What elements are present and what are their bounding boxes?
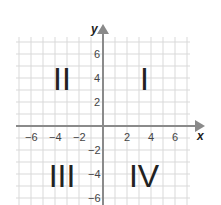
x-tick-label: −4 <box>49 131 62 143</box>
y-tick-label: −2 <box>88 144 101 156</box>
quadrant-2-label: II <box>53 61 71 97</box>
x-tick-label: 6 <box>172 131 178 143</box>
quadrant-4-label: IV <box>129 158 160 194</box>
y-axis-label: y <box>90 22 99 36</box>
y-tick-label: −4 <box>88 168 101 180</box>
quadrant-1-label: I <box>140 61 149 97</box>
x-tick-label: −6 <box>25 131 38 143</box>
y-tick-label: 4 <box>94 72 100 84</box>
x-tick-label: 4 <box>148 131 154 143</box>
coordinate-plane: x y −6 −4 −2 2 4 6 6 4 2 −2 −4 −6 I II I… <box>0 0 221 205</box>
y-tick-label: 6 <box>94 48 100 60</box>
y-tick-label: −6 <box>88 192 101 204</box>
x-tick-label: −2 <box>73 131 86 143</box>
y-tick-label: 2 <box>94 96 100 108</box>
x-axis-label: x <box>196 129 205 143</box>
x-tick-label: 2 <box>124 131 130 143</box>
quadrant-3-label: III <box>49 158 76 194</box>
y-axis-arrow-icon <box>97 24 109 34</box>
